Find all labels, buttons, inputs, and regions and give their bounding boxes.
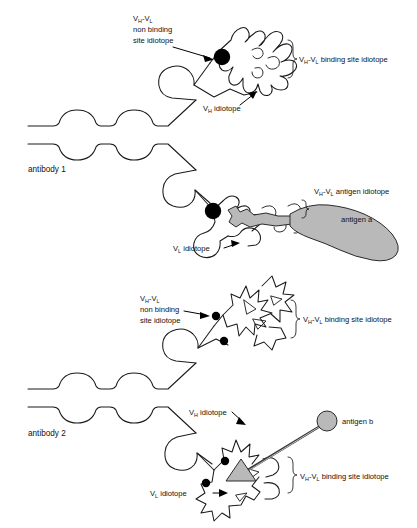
figure-canvas: VH-VL non binding site idiotope VH-VL bi… bbox=[0, 0, 417, 528]
vl-idiotope-marker-ab2-lower bbox=[202, 479, 210, 487]
label-binding-site-ab2-lower: VH-VL binding site idiotope bbox=[300, 472, 389, 482]
vh-idiotope-marker-ab2-upper bbox=[220, 337, 228, 345]
label-antigen-b-name: antigen b bbox=[342, 417, 373, 426]
label-nonbinding-ab2-line2: non binding bbox=[140, 305, 179, 314]
nonbinding-site-idiotope-marker-ab2-lower bbox=[221, 457, 229, 465]
label-nonbinding-ab2-line3: site idiotope bbox=[140, 316, 181, 325]
figure-background bbox=[0, 0, 417, 528]
label-nonbinding-ab1-line3: site idiotope bbox=[133, 36, 174, 45]
label-binding-site-ab1: VH-VL binding site idiotope bbox=[299, 55, 388, 65]
antibody-idiotope-figure: VH-VL non binding site idiotope VH-VL bi… bbox=[0, 0, 417, 528]
label-antibody-2-name: antibody 2 bbox=[28, 429, 66, 438]
nonbinding-site-idiotope-marker-ab1-lower bbox=[205, 203, 221, 219]
nonbinding-site-idiotope-marker-ab1 bbox=[214, 49, 230, 65]
nonbinding-site-idiotope-marker-ab2-upper bbox=[212, 312, 220, 320]
label-antibody-1-name: antibody 1 bbox=[28, 165, 66, 174]
antigen-b-carrier-sphere bbox=[317, 411, 337, 431]
label-binding-site-ab2-upper: VH-VL binding site idiotope bbox=[303, 315, 392, 325]
label-antigen-idiotope-ab1: VH-VL antigen idiotope bbox=[314, 187, 389, 197]
label-antigen-a-name: antigen a bbox=[341, 215, 373, 224]
label-nonbinding-ab1-line2: non binding bbox=[133, 25, 172, 34]
